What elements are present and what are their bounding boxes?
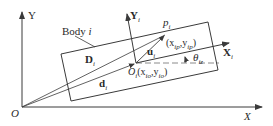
vector-d-label: di bbox=[99, 77, 107, 92]
vector-u-label: ui bbox=[147, 45, 155, 60]
angle-arc-icon bbox=[185, 57, 186, 63]
point-label: pi bbox=[162, 16, 171, 31]
local-origin-label: Oi(xio,yio) bbox=[128, 66, 167, 80]
local-x-label: Xi bbox=[223, 46, 233, 61]
body-label-leader bbox=[75, 36, 95, 47]
vector-D-label: Di bbox=[85, 53, 95, 68]
global-x-label: X bbox=[243, 110, 252, 122]
body-label: Body i bbox=[62, 25, 92, 37]
local-y-label: Yi bbox=[130, 9, 140, 24]
angle-label: θiz bbox=[193, 51, 203, 66]
point-coords-label: (xip,yip) bbox=[166, 37, 196, 51]
global-origin-label: O bbox=[11, 107, 19, 119]
local-y-axis bbox=[127, 14, 136, 63]
vector-d bbox=[22, 64, 134, 107]
global-y-label: Y bbox=[28, 9, 36, 21]
coordinate-frame-diagram: Y X O Body i Yi Xi pi (xip,yip) ui Di di… bbox=[0, 0, 273, 126]
